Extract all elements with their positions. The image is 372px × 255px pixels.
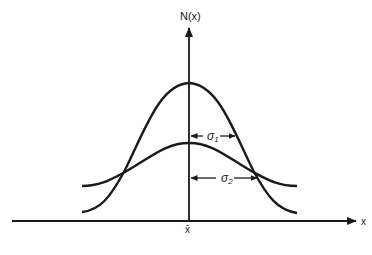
mean-label: x̄ [185, 224, 190, 235]
x-axis-label: x [361, 216, 366, 227]
sigma2-label: σ2 [221, 171, 233, 186]
y-axis-label: N(x) [180, 10, 201, 22]
normal-distribution-diagram: σ1 σ2 N(x) x x̄ [0, 0, 372, 255]
sigma1-label: σ1 [207, 129, 219, 144]
